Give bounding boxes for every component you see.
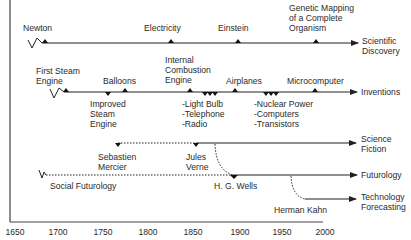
event-label-balloons: Balloons: [103, 76, 136, 86]
event-label-nuclear-power-group: -Nuclear Power -Computers -Transistors: [254, 99, 313, 129]
x-tick-2000: 2000: [315, 227, 334, 237]
track-inventions: [50, 88, 357, 98]
event-label-einstein: Einstein: [218, 23, 249, 33]
x-tick-1700: 1700: [48, 227, 67, 237]
event-label-first-steam-engine: First Steam Engine: [36, 66, 80, 86]
track-science-fiction: [115, 143, 356, 175]
x-tick-1800: 1800: [138, 227, 157, 237]
track-label-scientific-discovery: Scientific Discovery: [362, 36, 400, 56]
x-tick-1850: 1850: [183, 227, 202, 237]
event-label-jules-verne: Jules Verne: [186, 152, 208, 172]
x-tick-1950: 1950: [272, 227, 291, 237]
x-tick-1750: 1750: [93, 227, 112, 237]
track-label-technology-forecasting: Technology Forecasting: [361, 192, 406, 212]
event-label-internal-combustion-engine: Internal Combustion Engine: [165, 55, 211, 85]
track-label-futurology: Futurology: [361, 170, 402, 180]
event-label-microcomputer: Microcomputer: [287, 76, 344, 86]
event-label-sebastien-mercier: Sebastien Mercier: [98, 152, 136, 172]
break-mark-icon: [50, 88, 64, 98]
event-label-newton: Newton: [23, 23, 52, 33]
event-label-electricity: Electricity: [144, 23, 181, 33]
break-mark-icon: [39, 170, 46, 178]
event-label-light-bulb-group: -Light Bulb -Telephone -Radio: [182, 99, 225, 129]
x-tick-1650: 1650: [5, 227, 24, 237]
break-mark-icon: [28, 38, 42, 48]
event-label-social-futurology: Social Futurology: [50, 181, 116, 191]
x-tick-1900: 1900: [230, 227, 249, 237]
track-scientific-discovery: [28, 38, 358, 48]
track-label-science-fiction: Science Fiction: [361, 134, 392, 154]
event-label-herman-kahn: Herman Kahn: [274, 205, 327, 215]
event-label-hg-wells: H. G. Wells: [214, 181, 257, 191]
event-label-genetic-mapping: Genetic Mapping of a Complete Organism: [289, 3, 354, 33]
track-label-inventions: Inventions: [361, 87, 400, 97]
event-label-airplanes: Airplanes: [226, 76, 262, 86]
event-label-improved-steam-engine: Improved Steam Engine: [90, 99, 126, 129]
